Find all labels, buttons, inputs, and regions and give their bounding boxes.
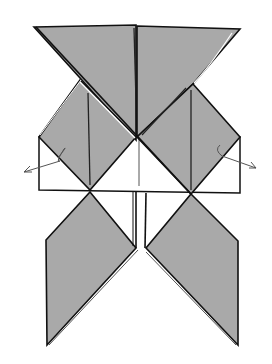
origami-diagram — [0, 0, 272, 364]
bottom-right-leg — [145, 193, 238, 345]
bottom-left-leg — [46, 192, 138, 345]
